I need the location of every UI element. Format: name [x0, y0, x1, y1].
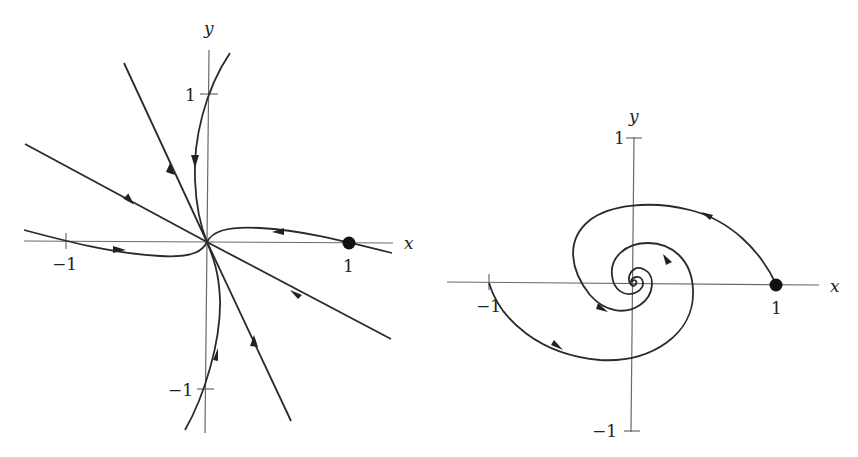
right-trajectory-spiral-from-neg: [489, 243, 693, 360]
left-trajectory-curve-top: [195, 53, 230, 242]
phase-portraits: y x −1 1 1 −1 y x −1 1 1 −1: [0, 0, 858, 457]
left-trajectory-curve-right: [207, 228, 392, 253]
left-trajectory-lower-right: [207, 242, 391, 339]
right-y-label: y: [628, 106, 639, 126]
left-tick-label-y-neg: −1: [168, 380, 193, 400]
left-tick-label-x-neg: −1: [52, 254, 77, 274]
left-initial-point: [343, 237, 356, 250]
left-x-label: x: [404, 233, 414, 253]
left-tick-label-y-pos: 1: [185, 85, 196, 105]
right-tick-label-x-pos: 1: [771, 298, 782, 318]
left-trajectory-steep-lower: [207, 242, 291, 421]
arrow-icon: [191, 155, 199, 168]
right-tick-label-y-neg: −1: [592, 421, 617, 441]
left-tick-label-x-pos: 1: [343, 256, 354, 276]
right-initial-point: [770, 279, 783, 292]
right-tick-label-x-neg: −1: [476, 296, 501, 316]
right-tick-label-y-pos: 1: [614, 128, 625, 148]
left-phase-portrait: y x −1 1 1 −1: [24, 18, 414, 433]
left-trajectory-curve-bottom: [185, 242, 220, 430]
arrow-icon: [701, 212, 713, 220]
right-trajectory-spiral-from-pos: [573, 205, 776, 311]
arrow-icon: [663, 254, 672, 265]
right-phase-portrait: y x −1 1 1 −1: [447, 106, 840, 441]
left-y-label: y: [203, 18, 214, 38]
right-x-label: x: [830, 276, 840, 296]
left-trajectory-upper-left: [25, 144, 207, 242]
